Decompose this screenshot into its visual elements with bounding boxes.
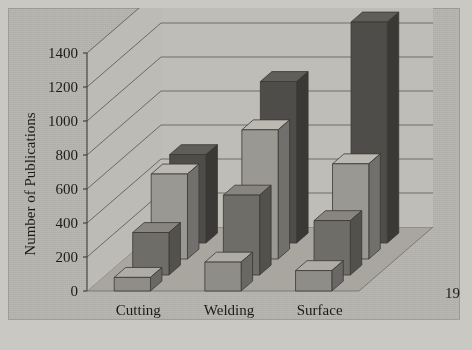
- bar: [114, 267, 162, 291]
- chart-panel: 0200400600800100012001400Number of Publi…: [8, 8, 460, 320]
- bar-chart-3d: 0200400600800100012001400Number of Publi…: [8, 8, 460, 320]
- svg-text:0: 0: [71, 283, 79, 299]
- svg-text:Cutting: Cutting: [116, 302, 162, 318]
- svg-text:800: 800: [56, 147, 79, 163]
- svg-text:400: 400: [56, 215, 79, 231]
- bar: [296, 261, 344, 291]
- scanned-page: 0200400600800100012001400Number of Publi…: [0, 0, 472, 350]
- svg-text:600: 600: [56, 181, 79, 197]
- svg-text:200: 200: [56, 249, 79, 265]
- bar: [205, 252, 253, 291]
- svg-text:Surface: Surface: [297, 302, 343, 318]
- svg-text:1400: 1400: [48, 45, 78, 61]
- svg-text:1980-82: 1980-82: [445, 285, 460, 301]
- svg-text:1200: 1200: [48, 79, 78, 95]
- svg-text:Welding: Welding: [204, 302, 255, 318]
- svg-text:Number of Publications: Number of Publications: [22, 112, 38, 255]
- svg-text:Modification: Modification: [281, 318, 360, 320]
- svg-text:1000: 1000: [48, 113, 78, 129]
